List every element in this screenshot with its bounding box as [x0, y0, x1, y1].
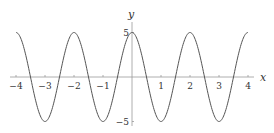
y-tick-label: −5	[116, 117, 130, 127]
x-tick-label: −1	[96, 81, 109, 91]
x-tick-label: 4	[245, 81, 251, 91]
x-tick-label: 1	[158, 81, 164, 91]
x-tick-label: −3	[38, 81, 52, 91]
x-axis-label: x	[260, 71, 267, 84]
x-tick-label: 2	[187, 81, 193, 91]
chart: −4−3−2−11234 5−5 x y	[0, 0, 274, 133]
x-tick-label: −4	[9, 81, 23, 91]
x-tick-label: −2	[67, 81, 80, 91]
y-axis-label: y	[127, 8, 135, 21]
x-tick-label: 3	[216, 81, 222, 91]
